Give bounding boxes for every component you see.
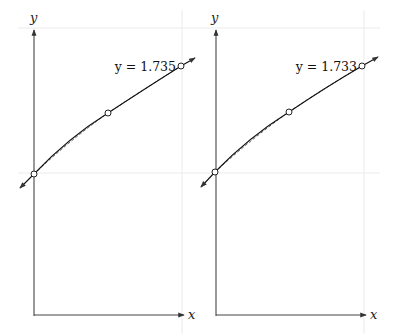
right-panel: y x y = 1.733 — [201, 10, 378, 322]
right-solid-curve — [201, 57, 378, 187]
right-dashed-curve — [215, 66, 362, 172]
right-value-label: y = 1.733 — [295, 59, 357, 74]
right-y-label: y — [210, 10, 219, 25]
left-y-label: y — [29, 10, 38, 25]
left-point-1 — [31, 171, 37, 177]
right-point-1 — [212, 169, 218, 175]
left-solid-curve — [20, 58, 195, 188]
figure: y x y = 1.735 y x y = 1.733 — [0, 0, 396, 334]
left-panel: y x y = 1.735 — [20, 10, 196, 322]
left-point-2 — [105, 110, 111, 116]
right-x-label: x — [370, 307, 378, 322]
right-point-2 — [286, 109, 292, 115]
left-point-3 — [178, 63, 184, 69]
left-value-label: y = 1.735 — [114, 59, 176, 74]
left-x-label: x — [188, 307, 196, 322]
right-point-3 — [359, 63, 365, 69]
left-dashed-curve — [34, 66, 181, 174]
